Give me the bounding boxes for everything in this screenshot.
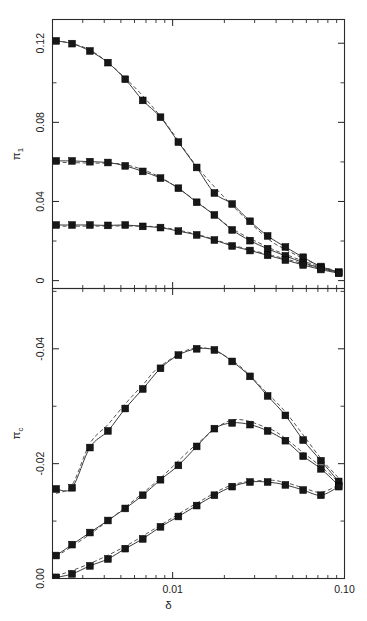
data-marker <box>300 262 307 269</box>
data-marker <box>53 37 60 44</box>
data-marker <box>229 243 236 250</box>
xtick-label-1: 0.10 <box>334 583 355 595</box>
yaxis-title-top: π1 <box>10 147 25 160</box>
xaxis-title: δ <box>165 599 171 611</box>
data-marker <box>104 222 111 229</box>
data-marker <box>335 483 342 490</box>
data-marker <box>211 212 218 219</box>
data-marker <box>69 484 76 491</box>
ytick-label-top-0: 0 <box>34 278 46 284</box>
figure-container: 00.040.080.12π10.00-0.02-0.040.010.10δπc <box>0 0 367 621</box>
data-marker <box>69 222 76 229</box>
data-marker <box>282 257 289 264</box>
data-marker <box>300 453 307 460</box>
data-marker <box>86 222 93 229</box>
data-marker <box>193 345 200 352</box>
dashed-fit-bottom-2 <box>56 480 339 576</box>
panel-top: 00.040.080.12π1 <box>10 20 345 289</box>
data-marker <box>282 244 289 251</box>
data-marker <box>86 48 93 55</box>
data-marker <box>264 232 271 239</box>
data-marker <box>139 386 146 393</box>
data-marker <box>53 158 60 165</box>
data-marker <box>175 462 182 469</box>
data-marker <box>211 190 218 197</box>
data-marker <box>264 392 271 399</box>
series-line-bottom-0 <box>56 348 339 491</box>
data-marker <box>175 139 182 146</box>
data-marker <box>282 437 289 444</box>
data-marker <box>247 247 254 254</box>
data-marker <box>139 168 146 175</box>
data-marker <box>104 428 111 435</box>
data-marker <box>211 492 218 499</box>
xtick-label-0: 0.01 <box>162 583 183 595</box>
panel-bottom: 0.00-0.02-0.040.010.10δπc <box>10 289 355 611</box>
data-marker <box>318 492 325 499</box>
data-marker <box>282 482 289 489</box>
data-marker <box>122 76 129 83</box>
data-marker <box>335 270 342 277</box>
data-marker <box>157 224 164 231</box>
data-marker <box>69 40 76 47</box>
data-marker <box>193 164 200 171</box>
data-marker <box>318 457 325 464</box>
data-marker <box>53 486 60 493</box>
data-marker <box>211 347 218 354</box>
data-marker <box>86 158 93 165</box>
two-panel-plot: 00.040.080.12π10.00-0.02-0.040.010.10δπc <box>0 0 367 621</box>
data-marker <box>193 502 200 509</box>
data-marker <box>229 483 236 490</box>
ytick-label-top-2: 0.08 <box>34 112 46 133</box>
axes-frame-bottom <box>53 289 345 579</box>
data-marker <box>139 492 146 499</box>
data-marker <box>211 425 218 432</box>
data-layer-bottom <box>53 345 342 580</box>
data-marker <box>122 162 129 169</box>
ytick-label-top-3: 0.12 <box>34 33 46 54</box>
data-layer-top <box>53 37 342 276</box>
data-marker <box>157 175 164 182</box>
data-marker <box>86 444 93 451</box>
data-marker <box>282 412 289 419</box>
data-marker <box>264 252 271 259</box>
data-marker <box>139 97 146 104</box>
series-line-bottom-2 <box>56 482 339 578</box>
data-marker <box>247 218 254 225</box>
data-marker <box>69 158 76 165</box>
data-marker <box>69 571 76 578</box>
data-marker <box>175 513 182 520</box>
data-marker <box>300 437 307 444</box>
data-marker <box>139 223 146 230</box>
data-marker <box>157 365 164 372</box>
data-marker <box>175 185 182 192</box>
data-marker <box>104 59 111 66</box>
data-marker <box>53 574 60 581</box>
yaxis-title-bottom: πc <box>10 428 25 440</box>
ytick-label-top-1: 0.04 <box>34 191 46 212</box>
data-marker <box>157 476 164 483</box>
data-marker <box>175 228 182 235</box>
data-marker <box>229 419 236 426</box>
data-marker <box>104 556 111 563</box>
series-line-bottom-1 <box>56 423 339 556</box>
ytick-label-bottom-1: -0.02 <box>34 452 46 476</box>
data-marker <box>175 352 182 359</box>
data-marker <box>229 201 236 208</box>
dashed-fit-top-1 <box>56 162 339 272</box>
data-marker <box>53 552 60 559</box>
data-marker <box>157 114 164 121</box>
data-marker <box>300 487 307 494</box>
series-line-top-1 <box>56 161 339 273</box>
data-marker <box>193 199 200 206</box>
data-marker <box>193 232 200 239</box>
data-marker <box>122 545 129 552</box>
data-marker <box>122 505 129 512</box>
data-marker <box>104 517 111 524</box>
data-marker <box>247 373 254 380</box>
data-marker <box>53 222 60 229</box>
data-marker <box>86 562 93 569</box>
data-marker <box>193 443 200 450</box>
dashed-fit-bottom-0 <box>56 348 339 494</box>
data-marker <box>247 421 254 428</box>
